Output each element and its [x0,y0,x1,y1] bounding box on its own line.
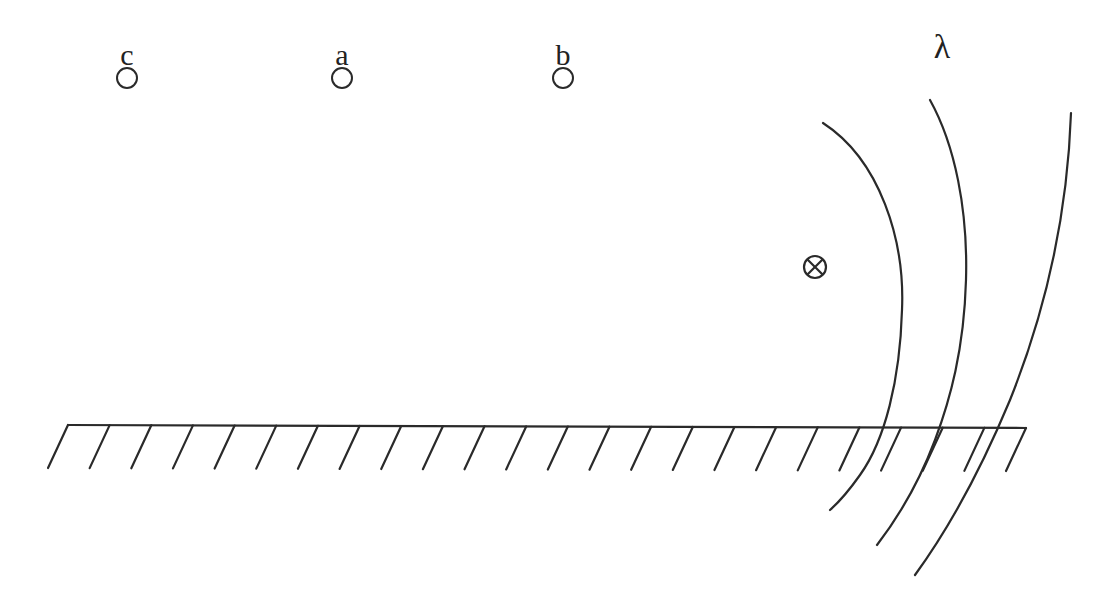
hatch-mark [1006,428,1026,471]
point-label-a: a [335,38,348,71]
hatch-mark [465,426,485,469]
ground-plane [48,425,1026,471]
point-label-b: b [556,38,571,71]
hatch-mark [798,427,818,470]
hatch-mark [589,427,609,470]
point-marker-c [117,68,137,88]
hatch-mark [548,427,568,470]
hatch-mark [839,427,859,470]
point-marker-b [553,68,573,88]
hatch-mark [340,426,360,469]
point-label-c: c [120,38,133,71]
hatch-mark [131,425,151,468]
hatch-mark [381,426,401,469]
hatch-mark [423,426,443,469]
hatch-mark [173,425,193,468]
wavefront-2 [877,100,966,545]
wavelength-label: λ [934,28,951,65]
point-marker-a [332,68,352,88]
wavefronts [823,100,1071,575]
hatch-mark [215,426,235,469]
hatch-mark [631,427,651,470]
hatch-mark [673,427,693,470]
hatch-mark [90,425,110,468]
hatch-mark [256,426,276,469]
hatch-mark [298,426,318,469]
ground-hatching [48,425,1026,471]
hatch-mark [714,427,734,470]
hatch-mark [756,427,776,470]
hatch-mark [506,426,526,469]
hatch-mark [881,428,901,471]
current-source-icon [804,256,826,278]
wavefront-3 [915,113,1071,575]
hatch-mark [48,425,68,468]
diagram-canvas: c a b λ [0,0,1113,603]
